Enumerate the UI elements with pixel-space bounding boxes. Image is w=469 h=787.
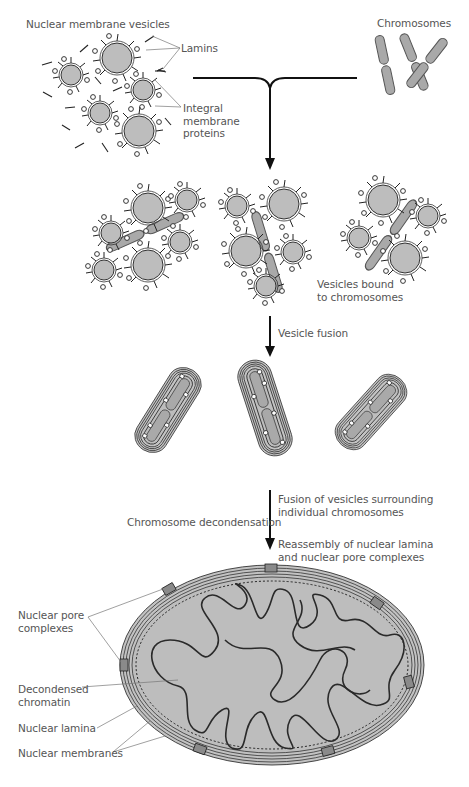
arrow-head-3 xyxy=(265,538,275,550)
label-decondensed-chromatin: Decondensed chromatin xyxy=(18,683,89,708)
label-fusion-surrounding: Fusion of vesicles surrounding individua… xyxy=(278,493,433,518)
label-integral-membrane-proteins: Integral membrane proteins xyxy=(183,102,240,140)
fused-chromosomes xyxy=(129,356,413,460)
bound-cluster-left xyxy=(86,182,206,291)
chromosomes-free xyxy=(374,32,449,95)
label-nuclear-lamina: Nuclear lamina xyxy=(18,722,96,735)
label-lamins: Lamins xyxy=(181,42,218,55)
label-chromosomes: Chromosomes xyxy=(377,17,451,30)
label-vesicles-bound: Vesicles bound to chromosomes xyxy=(317,278,403,303)
arrow-head-1 xyxy=(265,158,275,170)
label-vesicle-fusion: Vesicle fusion xyxy=(278,327,348,340)
reassembled-nucleus xyxy=(120,564,424,765)
label-nuclear-pore-complexes: Nuclear pore complexes xyxy=(18,609,84,634)
nuclear-membrane-vesicles xyxy=(42,34,171,157)
label-nuclear-membrane-vesicles: Nuclear membrane vesicles xyxy=(26,18,170,31)
label-chromosome-decondensation: Chromosome decondensation xyxy=(127,516,281,529)
bound-cluster-right xyxy=(341,176,447,284)
arrow-head-2 xyxy=(265,346,275,357)
bound-cluster-middle xyxy=(219,180,312,306)
label-nuclear-membranes: Nuclear membranes xyxy=(18,747,123,760)
label-reassembly: Reassembly of nuclear lamina and nuclear… xyxy=(278,538,433,563)
